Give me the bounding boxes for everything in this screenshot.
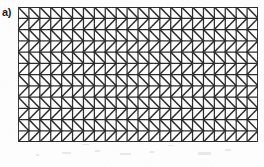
panel-label: a) [2,6,11,18]
scan-speckles [36,144,231,156]
mesh-svg [18,7,258,142]
mesh-diagram [18,7,258,142]
figure-panel: a) [0,0,264,167]
